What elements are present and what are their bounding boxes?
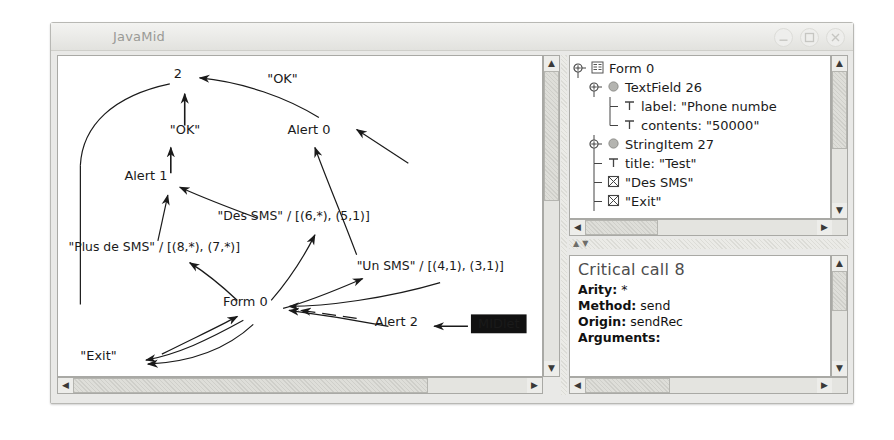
tree-row[interactable]: TextField 26 xyxy=(572,78,830,97)
graph-scroll-down-button[interactable]: ▼ xyxy=(544,361,559,376)
properties-scroll-down-button[interactable]: ▼ xyxy=(832,361,847,376)
tree-horizontal-scrollbar[interactable]: ◀ ▶ xyxy=(569,219,848,236)
state-machine-graph[interactable]: 2 Alert 0 Alert 1 Form 0 Alert 2 MIDlet … xyxy=(57,55,543,377)
vertical-splitter[interactable] xyxy=(561,55,567,395)
graph-scroll-left-button[interactable]: ◀ xyxy=(58,378,73,393)
tree-expander-icon[interactable] xyxy=(588,135,606,154)
properties-vertical-scrollbar[interactable]: ▲ ▼ xyxy=(831,255,848,377)
tree-row[interactable]: label: "Phone numbe xyxy=(572,97,830,116)
tree-row-label: "Des SMS" xyxy=(625,175,694,190)
chevron-up-icon: ▲ xyxy=(836,59,843,68)
edge-label-ok-mid: "OK" xyxy=(170,122,201,137)
edge-to-alert0 xyxy=(315,147,357,254)
tree-row[interactable]: contents: "50000" xyxy=(572,116,830,135)
component-tree[interactable]: Form 0 xyxy=(569,55,831,219)
text-icon xyxy=(622,118,637,134)
tree-row-label: label: "Phone numbe xyxy=(641,99,777,114)
chevron-left-icon: ◀ xyxy=(62,381,69,390)
tree-scroll-right-button[interactable]: ▶ xyxy=(817,220,832,235)
tree-scroll-left-button[interactable]: ◀ xyxy=(570,220,585,235)
tree-row[interactable]: Form 0 xyxy=(572,59,830,78)
minimize-button[interactable] xyxy=(774,28,793,47)
graph-node-2[interactable]: 2 xyxy=(174,66,182,81)
horizontal-splitter[interactable]: ▲▼ xyxy=(569,239,849,249)
chevron-up-icon: ▲ xyxy=(836,259,843,268)
chevron-right-icon: ▶ xyxy=(821,223,828,232)
property-key: Arguments: xyxy=(578,330,661,345)
maximize-button[interactable] xyxy=(800,28,819,47)
chevron-down-icon: ▼ xyxy=(836,206,843,215)
property-row-arity: Arity: * xyxy=(578,282,824,297)
tree-branch-icon xyxy=(588,154,606,173)
edge-long-to-form0 xyxy=(289,283,440,307)
graph-node-alert-1[interactable]: Alert 1 xyxy=(124,168,167,183)
title-bar[interactable]: JavaMid xyxy=(51,23,853,51)
edge-label-ok-top: "OK" xyxy=(267,71,298,86)
graph-node-alert-0[interactable]: Alert 0 xyxy=(287,122,330,137)
graph-node-midlet[interactable]: MIDlet xyxy=(471,314,527,333)
tree-row-label: StringItem 27 xyxy=(625,137,714,152)
properties-scroll-left-button[interactable]: ◀ xyxy=(570,378,585,393)
window-title: JavaMid xyxy=(113,29,165,44)
tree-row-label: contents: "50000" xyxy=(641,118,759,133)
tree-vertical-scroll-thumb[interactable] xyxy=(832,71,847,149)
close-icon xyxy=(829,31,842,44)
command-icon xyxy=(606,194,621,210)
expanded-handle-icon xyxy=(588,135,606,154)
properties-vertical-scroll-thumb[interactable] xyxy=(832,271,847,311)
chevron-left-icon: ◀ xyxy=(574,381,581,390)
tree-expander-icon[interactable] xyxy=(588,78,606,97)
expanded-handle-icon xyxy=(588,78,606,97)
application-window: JavaMid xyxy=(50,22,854,404)
tree-scroll-down-button[interactable]: ▼ xyxy=(832,203,847,218)
expanded-handle-icon xyxy=(572,59,590,78)
chevron-right-icon: ▶ xyxy=(821,381,828,390)
graph-vertical-scroll-thumb[interactable] xyxy=(544,71,559,201)
tree-row[interactable]: title: "Test" xyxy=(572,154,830,173)
graph-scroll-up-button[interactable]: ▲ xyxy=(544,56,559,71)
tree-panel: Form 0 xyxy=(569,55,849,237)
properties-title: Critical call 8 xyxy=(578,260,824,279)
tree-row[interactable]: "Exit" xyxy=(572,192,830,211)
graph-horizontal-scroll-thumb[interactable] xyxy=(73,378,428,393)
close-button[interactable] xyxy=(826,28,845,47)
properties-horizontal-scrollbar[interactable]: ◀ ▶ xyxy=(569,377,848,394)
property-row-method: Method: send xyxy=(578,298,824,313)
tree-horizontal-scroll-thumb[interactable] xyxy=(585,220,658,235)
tree-row[interactable]: StringItem 27 xyxy=(572,135,830,154)
tree-expander-icon[interactable] xyxy=(572,59,590,78)
graph-canvas: 2 Alert 0 Alert 1 Form 0 Alert 2 MIDlet … xyxy=(58,56,542,376)
edge-right-to-alert0-label xyxy=(357,130,409,164)
tree-row-label: "Exit" xyxy=(625,194,662,209)
tree-row-label: Form 0 xyxy=(609,61,654,76)
tree-scroll-up-button[interactable]: ▲ xyxy=(832,56,847,71)
edge-label-exit: "Exit" xyxy=(80,348,116,363)
graph-panel: 2 Alert 0 Alert 1 Form 0 Alert 2 MIDlet … xyxy=(57,55,561,395)
graph-node-alert-2[interactable]: Alert 2 xyxy=(375,314,418,329)
graph-scroll-right-button[interactable]: ▶ xyxy=(527,378,542,393)
graph-horizontal-scrollbar[interactable]: ◀ ▶ xyxy=(57,377,543,394)
tree-vertical-scrollbar[interactable]: ▲ ▼ xyxy=(831,55,848,219)
properties-scroll-up-button[interactable]: ▲ xyxy=(832,256,847,271)
tree-row[interactable]: "Des SMS" xyxy=(572,173,830,192)
properties-horizontal-scroll-thumb[interactable] xyxy=(585,378,670,393)
property-value: * xyxy=(621,282,627,297)
edge-label-plus-de-sms: "Plus de SMS" / [(8,*), (7,*)] xyxy=(68,239,240,254)
properties-panel: Critical call 8 Arity: * Method: send Or… xyxy=(569,255,849,395)
properties-scroll-right-button[interactable]: ▶ xyxy=(817,378,832,393)
minimize-icon xyxy=(777,31,790,44)
tree-last-branch-icon xyxy=(604,116,622,135)
command-icon xyxy=(606,175,621,191)
window-content: 2 Alert 0 Alert 1 Form 0 Alert 2 MIDlet … xyxy=(51,51,853,403)
graph-node-form-0[interactable]: Form 0 xyxy=(223,294,268,309)
window-controls xyxy=(774,28,845,47)
edge-loop-to-2 xyxy=(80,84,169,165)
graph-node-midlet-label: MIDlet xyxy=(478,316,519,331)
chevron-down-icon: ▼ xyxy=(836,364,843,373)
item-icon xyxy=(606,137,621,153)
graph-vertical-scrollbar[interactable]: ▲ ▼ xyxy=(543,55,560,377)
critical-call-details[interactable]: Critical call 8 Arity: * Method: send Or… xyxy=(569,255,831,377)
splitter-collapse-down-icon[interactable]: ▼ xyxy=(582,239,591,248)
splitter-collapse-controls[interactable]: ▲▼ xyxy=(573,239,591,249)
splitter-collapse-up-icon[interactable]: ▲ xyxy=(573,239,582,248)
